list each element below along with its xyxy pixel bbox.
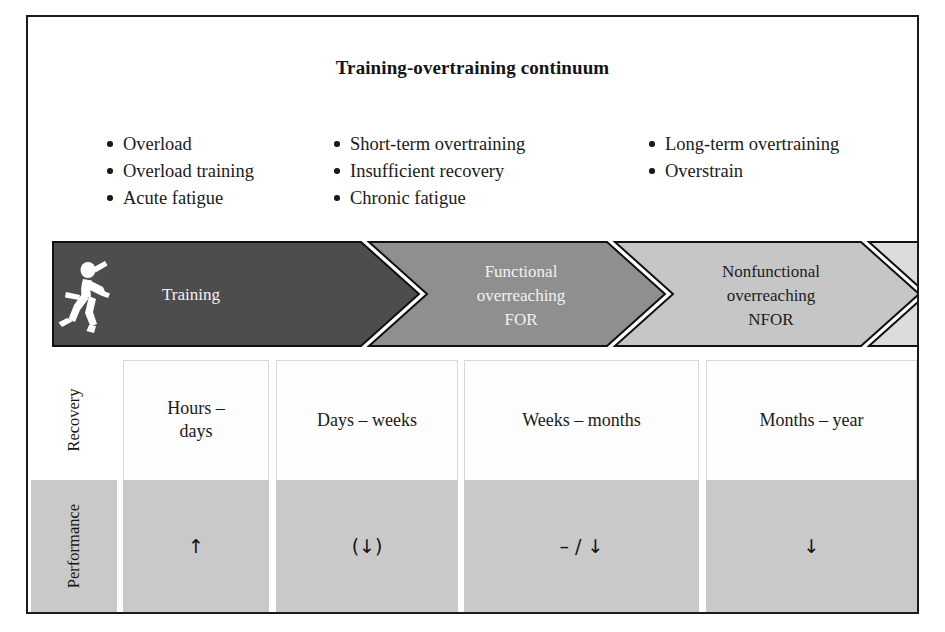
list-item-label: Chronic fatigue bbox=[350, 188, 466, 208]
stage-for-line-3: FOR bbox=[504, 310, 538, 329]
table-row-labels: Recovery Performance bbox=[31, 360, 117, 612]
list-item-label: Acute fatigue bbox=[123, 188, 223, 208]
performance-cell-ots: ↓ bbox=[706, 480, 917, 612]
bullet-column-functional-overreaching: Short-term overtraining Insufficient rec… bbox=[333, 131, 623, 212]
recovery-cell-nfor: Weeks – months bbox=[464, 360, 699, 480]
list-item: Short-term overtraining bbox=[333, 131, 623, 158]
recovery-value-ots: Months – year bbox=[760, 409, 864, 432]
figure-frame: Training-overtraining continuum Overload… bbox=[26, 15, 919, 614]
recovery-cell-ots: Months – year bbox=[706, 360, 917, 480]
bullet-dot-icon bbox=[107, 195, 113, 201]
table-column-for: Days – weeks (↓) bbox=[276, 360, 458, 612]
performance-value-for: (↓) bbox=[352, 535, 383, 557]
list-item-label: Short-term overtraining bbox=[350, 134, 525, 154]
stage-nfor-line-3: NFOR bbox=[748, 310, 794, 329]
row-label-recovery-cell: Recovery bbox=[31, 360, 117, 480]
performance-cell-training: ↑ bbox=[123, 480, 269, 612]
stage-for-line-2: overreaching bbox=[477, 286, 566, 305]
list-item-label: Insufficient recovery bbox=[350, 161, 504, 181]
page-title: Training-overtraining continuum bbox=[28, 57, 917, 79]
stage-training[interactable]: Training bbox=[53, 242, 419, 346]
list-item: Overload bbox=[106, 131, 336, 158]
list-item-label: Overload training bbox=[123, 161, 254, 181]
bullet-dot-icon bbox=[107, 168, 113, 174]
table-column-training: Hours – days ↑ bbox=[123, 360, 269, 612]
list-item: Overstrain bbox=[648, 158, 918, 185]
performance-value-ots: ↓ bbox=[804, 535, 820, 557]
terminology-lists: Overload Overload training Acute fatigue… bbox=[28, 131, 917, 227]
list-item: Overload training bbox=[106, 158, 336, 185]
table-column-ots: Months – year ↓ bbox=[706, 360, 917, 612]
recovery-cell-for: Days – weeks bbox=[276, 360, 458, 480]
list-item-label: Overstrain bbox=[665, 161, 743, 181]
bullet-column-training: Overload Overload training Acute fatigue bbox=[106, 131, 336, 212]
performance-cell-for: (↓) bbox=[276, 480, 458, 612]
outcome-table: Recovery Performance Hours – days ↑ Days… bbox=[31, 360, 917, 612]
list-item-label: Long-term overtraining bbox=[665, 134, 839, 154]
bullet-dot-icon bbox=[334, 141, 340, 147]
list-item: Insufficient recovery bbox=[333, 158, 623, 185]
bullet-dot-icon bbox=[107, 141, 113, 147]
performance-value-training: ↑ bbox=[188, 535, 204, 557]
list-item: Long-term overtraining bbox=[648, 131, 918, 158]
bullet-dot-icon bbox=[649, 168, 655, 174]
recovery-value-nfor: Weeks – months bbox=[522, 409, 641, 432]
row-label-performance-cell: Performance bbox=[31, 480, 117, 612]
stage-training-label: Training bbox=[162, 285, 220, 304]
bullet-dot-icon bbox=[334, 195, 340, 201]
bullet-dot-icon bbox=[649, 141, 655, 147]
list-item: Chronic fatigue bbox=[333, 185, 623, 212]
bullet-dot-icon bbox=[334, 168, 340, 174]
recovery-cell-training: Hours – days bbox=[123, 360, 269, 480]
list-item: Acute fatigue bbox=[106, 185, 336, 212]
stage-nfor-line-1: Nonfunctional bbox=[722, 262, 820, 281]
performance-cell-nfor: – / ↓ bbox=[464, 480, 699, 612]
bullet-column-overtraining: Long-term overtraining Overstrain bbox=[648, 131, 918, 185]
training-continuum-band: Training Functional overreaching FOR Non… bbox=[31, 230, 917, 358]
performance-value-nfor: – / ↓ bbox=[560, 535, 604, 557]
recovery-value-training: Hours – days bbox=[167, 397, 225, 443]
table-column-nfor: Weeks – months – / ↓ bbox=[464, 360, 699, 612]
list-item-label: Overload bbox=[123, 134, 192, 154]
recovery-value-for: Days – weeks bbox=[317, 409, 417, 432]
stage-for-line-1: Functional bbox=[485, 262, 558, 281]
row-label-performance: Performance bbox=[64, 504, 84, 588]
stage-nfor-line-2: overreaching bbox=[727, 286, 816, 305]
row-label-recovery: Recovery bbox=[64, 388, 84, 451]
